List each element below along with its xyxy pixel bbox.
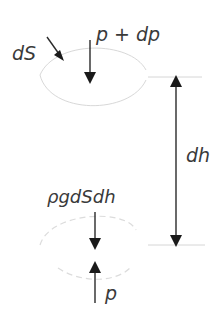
weight-label: ρgdSdh	[47, 186, 116, 207]
bottom-pressure-label: p	[104, 282, 117, 304]
hydrostatic-element-diagram: dS p + dp dh ρgdSdh p	[0, 0, 222, 322]
weight-arrow-icon	[89, 212, 101, 250]
height-label: dh	[186, 144, 210, 166]
area-pointer-arrow-icon	[47, 37, 64, 61]
area-label: dS	[12, 42, 36, 64]
top-pressure-arrow-icon	[84, 40, 96, 84]
top-pressure-label: p + dp	[95, 23, 160, 45]
bottom-pressure-arrow-icon	[89, 261, 101, 303]
bottom-surface-ellipse	[40, 216, 136, 279]
